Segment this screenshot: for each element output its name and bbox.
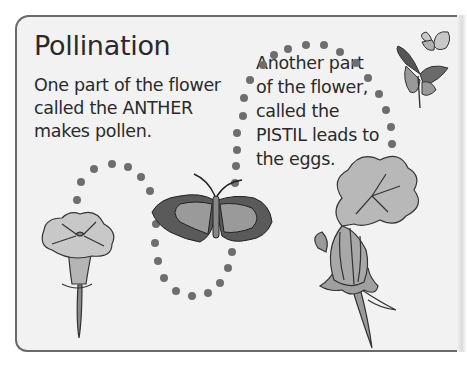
anther-flower-icon: [42, 212, 114, 338]
butterflies-pair-icon: [397, 32, 450, 108]
pistil-flower-icon: [315, 156, 419, 348]
illustration-layer: [0, 0, 467, 376]
moth-butterfly-icon: [152, 174, 272, 242]
